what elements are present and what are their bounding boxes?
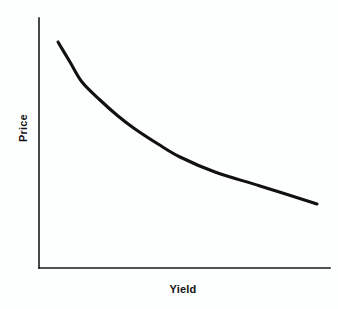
x-axis-label: Yield — [138, 283, 228, 295]
price-yield-curve — [58, 42, 317, 204]
chart-figure: Price Yield — [0, 0, 338, 309]
y-axis-label: Price — [0, 105, 46, 151]
plot-area — [0, 0, 338, 309]
